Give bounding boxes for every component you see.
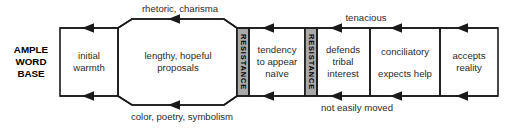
bottom-rail <box>60 96 498 105</box>
initial-warmth-label-line1: initial <box>78 50 100 61</box>
tendency-label-line3: naïve <box>265 68 288 79</box>
base-label-line1: AMPLE <box>14 44 49 55</box>
bottom-arrowhead-6 <box>456 91 468 101</box>
accepts-reality-label-line2: reality <box>456 62 482 73</box>
bottom-arrowhead-4 <box>330 91 342 101</box>
edge-label-tenacious: tenacious <box>345 12 386 23</box>
stage-conciliatory-expects-help: conciliatory expects help <box>370 28 440 96</box>
stage-resistance-2: RESISTANCE <box>305 28 317 96</box>
bottom-arrowhead-1 <box>82 91 94 101</box>
tendency-label-line2: to appear <box>257 56 298 67</box>
bottom-arrowhead-3 <box>262 91 274 101</box>
edge-label-rhetoric-charisma: rhetoric, charisma <box>142 3 219 14</box>
ample-word-base-label: AMPLE WORD BASE <box>14 44 49 79</box>
initial-warmth-label-line2: warmth <box>72 62 104 73</box>
tendency-label-line1: tendency <box>258 44 297 55</box>
conciliatory-label: conciliatory <box>381 46 429 57</box>
stage-tendency-to-appear-naive: tendency to appear naïve <box>249 28 305 96</box>
lengthy-hopeful-proposals-label-line2: proposals <box>157 62 199 73</box>
edge-label-color-poetry-symbolism: color, poetry, symbolism <box>131 111 233 122</box>
conciliatory-expects-help-box <box>370 28 440 96</box>
stage-accepts-reality: accepts reality <box>440 28 498 96</box>
expects-help-label: expects help <box>378 68 432 79</box>
lengthy-hopeful-proposals-label-line1: lengthy, hopeful <box>144 50 211 61</box>
flow-diagram: initial warmth lengthy, hopeful proposal… <box>0 0 516 128</box>
stage-initial-warmth: initial warmth <box>60 28 118 96</box>
top-arrowhead-3 <box>262 23 274 33</box>
top-arrowhead-4 <box>330 23 342 33</box>
stage-lengthy-hopeful-proposals: lengthy, hopeful proposals <box>118 19 237 105</box>
resistance-2-label: RESISTANCE <box>307 34 316 90</box>
bottom-arrowhead-2 <box>168 100 180 110</box>
stage-defends-tribal-interest: defends tribal interest <box>317 28 370 96</box>
defends-label-line1: defends <box>326 44 360 55</box>
top-arrowhead-6 <box>456 23 468 33</box>
base-label-line3: BASE <box>17 68 45 79</box>
stage-resistance-1: RESISTANCE <box>237 28 249 96</box>
top-arrowhead-2 <box>168 14 180 24</box>
base-label-line2: WORD <box>15 56 46 67</box>
defends-label-line3: interest <box>327 68 359 79</box>
top-rail <box>60 19 498 28</box>
top-arrowhead-1 <box>82 23 94 33</box>
edge-label-not-easily-moved: not easily moved <box>321 102 393 113</box>
accepts-reality-label-line1: accepts <box>452 50 485 61</box>
top-arrowhead-5 <box>390 23 402 33</box>
bottom-arrowhead-5 <box>390 91 402 101</box>
flow-diagram-canvas: initial warmth lengthy, hopeful proposal… <box>0 0 516 128</box>
defends-label-line2: tribal <box>333 56 354 67</box>
resistance-1-label: RESISTANCE <box>239 34 248 90</box>
